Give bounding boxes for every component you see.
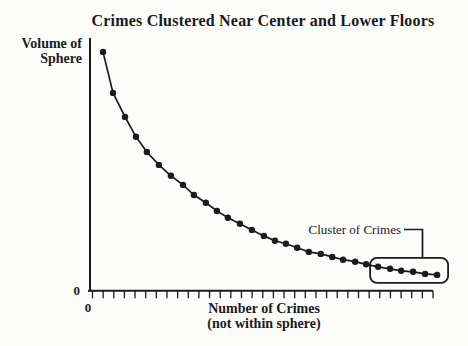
data-point — [225, 215, 231, 221]
data-point — [144, 149, 150, 155]
data-point — [203, 200, 209, 206]
data-point — [272, 238, 278, 244]
volume-decay-curve — [103, 52, 437, 275]
data-point — [122, 114, 128, 120]
data-point — [294, 245, 300, 251]
data-point — [375, 264, 381, 270]
data-point — [434, 272, 440, 278]
data-point — [398, 268, 404, 274]
data-point — [340, 257, 346, 263]
data-point — [180, 182, 186, 188]
data-point — [100, 49, 106, 55]
data-point — [191, 192, 197, 198]
data-point — [156, 162, 162, 168]
data-point — [422, 271, 428, 277]
data-point — [283, 241, 289, 247]
crime-volume-chart: Crimes Clustered Near Center and Lower F… — [0, 0, 468, 346]
plot-area — [0, 0, 468, 346]
data-point — [410, 269, 416, 275]
data-point — [214, 208, 220, 214]
data-point — [168, 173, 174, 179]
data-point — [352, 259, 358, 265]
data-point — [387, 266, 393, 272]
cluster-of-crimes-box — [370, 258, 448, 283]
data-point — [306, 249, 312, 255]
data-point — [237, 221, 243, 227]
data-point — [261, 233, 267, 239]
data-point — [318, 251, 324, 257]
data-point — [363, 261, 369, 267]
data-point — [249, 227, 255, 233]
data-point — [133, 134, 139, 140]
data-point — [329, 254, 335, 260]
data-point — [110, 90, 116, 96]
annotation-connector-line — [404, 230, 423, 258]
